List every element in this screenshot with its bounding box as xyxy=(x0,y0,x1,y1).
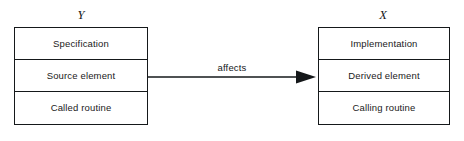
arrow-head-icon xyxy=(296,71,316,84)
affects-relation-diagram: Y Specification Source element Called ro… xyxy=(0,0,464,141)
relation-label-affects: affects xyxy=(196,62,268,73)
